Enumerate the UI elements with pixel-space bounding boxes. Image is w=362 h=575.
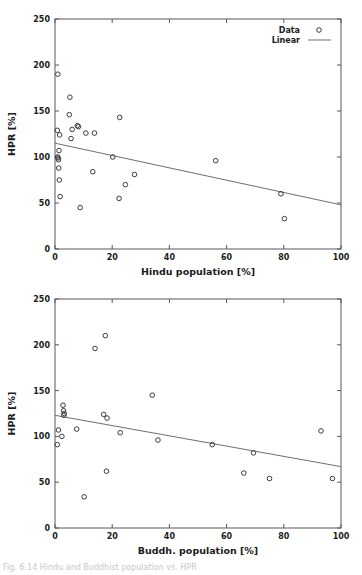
data-point: [117, 115, 122, 120]
x-tick-label: 0: [52, 253, 58, 262]
y-tick-label: 200: [33, 61, 50, 70]
data-point: [123, 182, 128, 187]
legend-label-linear: Linear: [272, 36, 300, 45]
y-tick-label: 200: [33, 341, 50, 350]
data-point: [68, 95, 73, 100]
plot-frame: [55, 299, 341, 528]
y-tick-label: 250: [33, 15, 50, 24]
data-point: [74, 427, 79, 432]
data-point: [55, 442, 60, 447]
x-tick-label: 0: [52, 532, 58, 541]
data-point: [282, 216, 287, 221]
x-axis-title: Hindu population [%]: [141, 266, 255, 277]
data-point: [93, 346, 98, 351]
y-tick-label: 100: [33, 432, 50, 441]
y-tick-label: 250: [33, 295, 50, 304]
data-point: [103, 333, 108, 338]
data-point: [92, 131, 97, 136]
data-point: [319, 429, 324, 434]
data-point: [57, 148, 62, 153]
data-point: [105, 416, 110, 421]
data-point: [78, 205, 83, 210]
y-tick-label: 150: [33, 107, 50, 116]
data-point: [58, 194, 63, 199]
data-point: [56, 72, 61, 77]
legend-marker-circle: [317, 28, 322, 33]
data-point: [213, 158, 218, 163]
data-point: [210, 442, 215, 447]
scatter-plot-hindu: 020406080100050100150200250Hindu populat…: [0, 0, 362, 282]
data-point: [84, 131, 89, 136]
y-axis-title: HPR [%]: [6, 112, 17, 156]
x-tick-label: 40: [164, 253, 176, 262]
y-tick-label: 0: [44, 524, 50, 533]
data-point: [156, 438, 161, 443]
x-tick-label: 40: [164, 532, 176, 541]
data-point: [90, 169, 95, 174]
linear-fit-line: [55, 143, 341, 205]
data-point: [330, 476, 335, 481]
data-point: [118, 430, 123, 435]
y-tick-label: 0: [44, 245, 50, 254]
data-point: [55, 128, 60, 133]
y-tick-label: 50: [39, 478, 51, 487]
chart-hindu-population: 020406080100050100150200250Hindu populat…: [0, 0, 362, 282]
data-point: [104, 469, 109, 474]
chart-buddhist-population: 020406080100050100150200250Buddh. popula…: [0, 280, 362, 560]
data-point: [56, 428, 61, 433]
data-point: [241, 471, 246, 476]
data-point: [82, 495, 87, 500]
data-point: [117, 196, 122, 201]
x-tick-label: 100: [333, 253, 350, 262]
linear-fit-line: [55, 415, 341, 466]
data-point: [56, 166, 61, 171]
legend-label-data: Data: [279, 26, 300, 35]
data-point: [132, 172, 137, 177]
data-point: [70, 127, 75, 132]
y-tick-label: 100: [33, 153, 50, 162]
data-point: [61, 403, 66, 408]
data-point: [60, 434, 65, 439]
data-point: [150, 393, 155, 398]
y-axis-title: HPR [%]: [6, 392, 17, 436]
data-point: [67, 112, 72, 117]
y-tick-label: 150: [33, 387, 50, 396]
data-point: [69, 136, 74, 141]
x-axis-title: Buddh. population [%]: [138, 545, 258, 556]
x-tick-label: 80: [278, 253, 290, 262]
x-tick-label: 20: [107, 253, 119, 262]
data-point: [57, 178, 62, 183]
data-point: [57, 133, 62, 138]
y-tick-label: 50: [39, 199, 51, 208]
caption-fragment: Fig. 6.14 Hindu and Buddhist population …: [3, 563, 359, 572]
x-tick-label: 60: [221, 532, 233, 541]
scatter-plot-buddh: 020406080100050100150200250Buddh. popula…: [0, 280, 362, 560]
x-tick-label: 60: [221, 253, 233, 262]
x-tick-label: 20: [107, 532, 119, 541]
x-tick-label: 80: [278, 532, 290, 541]
x-tick-label: 100: [333, 532, 350, 541]
plot-frame: [55, 19, 341, 249]
data-point: [267, 476, 272, 481]
